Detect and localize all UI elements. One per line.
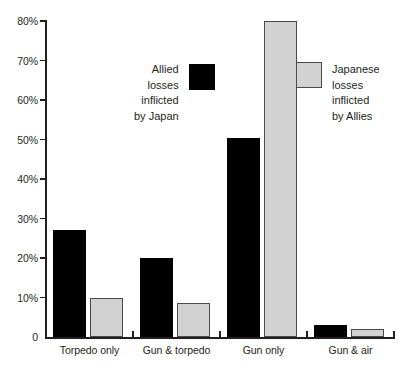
legend-japanese-swatch [296, 62, 322, 88]
legend-allied-losses: Allied losses inflicted by Japan [134, 62, 215, 124]
y-tick-label-30: 30% [2, 214, 38, 225]
bar-japanese-4 [351, 329, 384, 337]
legend-allied-label: Allied losses inflicted by Japan [134, 62, 179, 124]
y-tick-label-70: 70% [2, 56, 38, 67]
legend-allied-line-1: Allied [134, 62, 179, 78]
y-tick-label-10: 10% [2, 293, 38, 304]
y-tick-label-40: 40% [2, 174, 38, 185]
y-tick-label-20: 20% [2, 253, 38, 264]
y-tick-label-60: 60% [2, 95, 38, 106]
legend-japanese-losses: Japanese losses inflicted by Allies [296, 62, 380, 124]
bar-japanese-1 [90, 298, 123, 338]
legend-allied-line-3: inflicted [134, 93, 179, 109]
legend-japanese-line-2: losses [332, 78, 380, 94]
y-tick-label-50: 50% [2, 135, 38, 146]
bar-allied-4 [314, 325, 347, 337]
bar-japanese-2 [177, 303, 210, 337]
legend-japanese-line-3: inflicted [332, 93, 380, 109]
bar-japanese-3 [264, 21, 297, 337]
legend-japanese-line-1: Japanese [332, 62, 380, 78]
x-axis-label-4: Gun & air [297, 345, 401, 356]
bar-allied-1 [53, 230, 86, 337]
bar-chart: 010%20%30%40%50%60%70%80% Torpedo onlyGu… [0, 0, 401, 376]
bar-allied-2 [140, 258, 173, 337]
legend-japanese-label: Japanese losses inflicted by Allies [332, 62, 380, 124]
legend-allied-line-2: losses [134, 78, 179, 94]
legend-allied-swatch [189, 64, 215, 90]
legend-allied-line-4: by Japan [134, 109, 179, 125]
y-tick-label-0: 0 [2, 332, 38, 343]
bar-allied-3 [227, 138, 260, 337]
y-tick-label-80: 80% [2, 16, 38, 27]
legend-japanese-line-4: by Allies [332, 109, 380, 125]
